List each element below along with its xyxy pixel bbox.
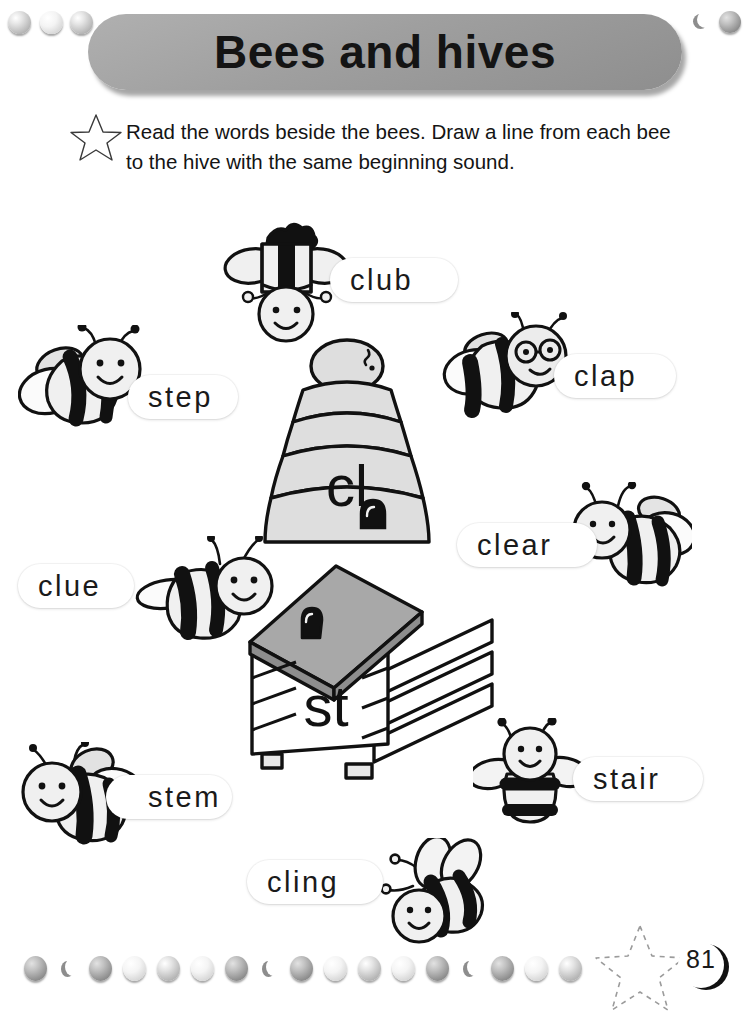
decor-dot [191,956,214,981]
page-number-badge: 81 [676,938,732,994]
word-label: clap [574,360,637,393]
word-pill-club: club [330,258,458,302]
decor-dot [324,956,347,981]
decor-dot [426,956,449,981]
word-pill-step: step [128,375,238,419]
decor-crescent [65,958,80,976]
instruction-text: Read the words beside the bees. Draw a l… [126,117,686,177]
title-banner: Bees and hives [88,14,682,90]
decor-dot [290,956,313,981]
word-label: clue [38,570,101,603]
decor-dot [525,956,548,981]
word-label: stair [593,763,660,796]
decor-dot [392,956,415,981]
decor-dot [70,11,93,34]
page-number: 81 [670,945,732,974]
decor-dot [157,956,180,981]
decor-dot [8,11,31,34]
word-pill-cling: cling [247,860,383,904]
decor-dot [40,11,63,34]
word-label: stem [148,781,221,814]
word-label: clear [477,529,552,562]
star-outline-icon [68,110,124,166]
decor-crescent [467,958,482,976]
decor-dot [719,11,741,33]
word-pill-clap: clap [554,354,676,398]
word-label: club [350,264,413,297]
hive-cl-icon: cl [255,338,440,553]
word-label: cling [267,866,339,899]
decor-dot [559,956,582,981]
page-title: Bees and hives [214,25,556,79]
hive-st-label: st [303,673,348,738]
decor-dot [123,956,146,981]
worksheet-page: Bees and hives Read the words beside the… [0,0,749,1017]
decor-crescent [697,11,714,28]
decor-dot [491,956,514,981]
decor-crescent [266,958,281,976]
decor-dot [89,956,112,981]
word-pill-stem: stem [106,775,232,819]
decor-dot [24,956,47,981]
decor-dot [225,956,248,981]
word-pill-stair: stair [573,757,703,801]
decor-dot [358,956,381,981]
hive-st-icon: st [222,558,512,790]
word-label: step [148,381,213,414]
word-pill-clue: clue [18,564,134,608]
